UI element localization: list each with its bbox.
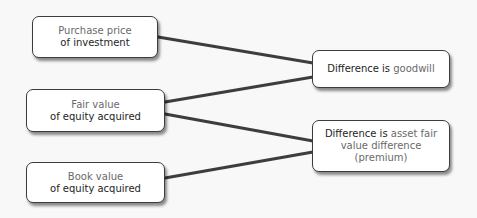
edge-fair-to-premium bbox=[165, 114, 313, 141]
node-premium-prefix: Difference is bbox=[325, 128, 391, 139]
node-fair-value: Fair value of equity acquired bbox=[26, 89, 165, 132]
node-book-value-line1: Book value bbox=[68, 171, 123, 183]
node-premium-term-2: value difference bbox=[341, 140, 422, 152]
node-book-value: Book value of equity acquired bbox=[26, 162, 165, 203]
node-goodwill: Difference is goodwill bbox=[312, 50, 450, 88]
edge-purchase-to-goodwill bbox=[158, 37, 313, 63]
node-premium-line1: Difference is asset fair bbox=[325, 128, 437, 140]
node-fair-value-line1: Fair value bbox=[71, 99, 119, 111]
diagram-canvas: Purchase price of investment Fair value … bbox=[0, 0, 477, 218]
node-premium-term-1: asset fair bbox=[391, 128, 437, 139]
node-purchase-price-line1: Purchase price bbox=[58, 25, 131, 37]
edge-book-to-premium bbox=[165, 152, 313, 178]
node-goodwill-term: goodwill bbox=[393, 63, 434, 74]
node-goodwill-text: Difference is goodwill bbox=[327, 63, 434, 75]
node-purchase-price: Purchase price of investment bbox=[32, 16, 158, 58]
node-premium: Difference is asset fair value differenc… bbox=[312, 120, 450, 172]
edge-fair-to-goodwill bbox=[165, 77, 313, 102]
node-book-value-line2: of equity acquired bbox=[50, 183, 141, 195]
node-premium-term-3: (premium) bbox=[355, 152, 408, 164]
node-fair-value-line2: of equity acquired bbox=[50, 111, 141, 123]
node-purchase-price-line2: of investment bbox=[60, 37, 129, 49]
node-goodwill-prefix: Difference is bbox=[327, 63, 393, 74]
